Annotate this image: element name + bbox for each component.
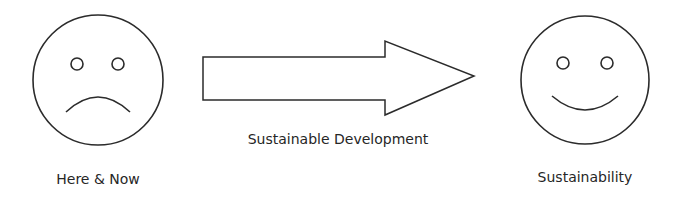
right-arrow-icon <box>203 41 474 115</box>
sustainability-label: Sustainability <box>538 169 633 185</box>
happy-face-icon <box>521 16 649 144</box>
here-and-now-label: Here & Now <box>56 171 140 187</box>
sustainable-development-label: Sustainable Development <box>248 131 429 147</box>
sad-face-icon <box>33 15 163 145</box>
